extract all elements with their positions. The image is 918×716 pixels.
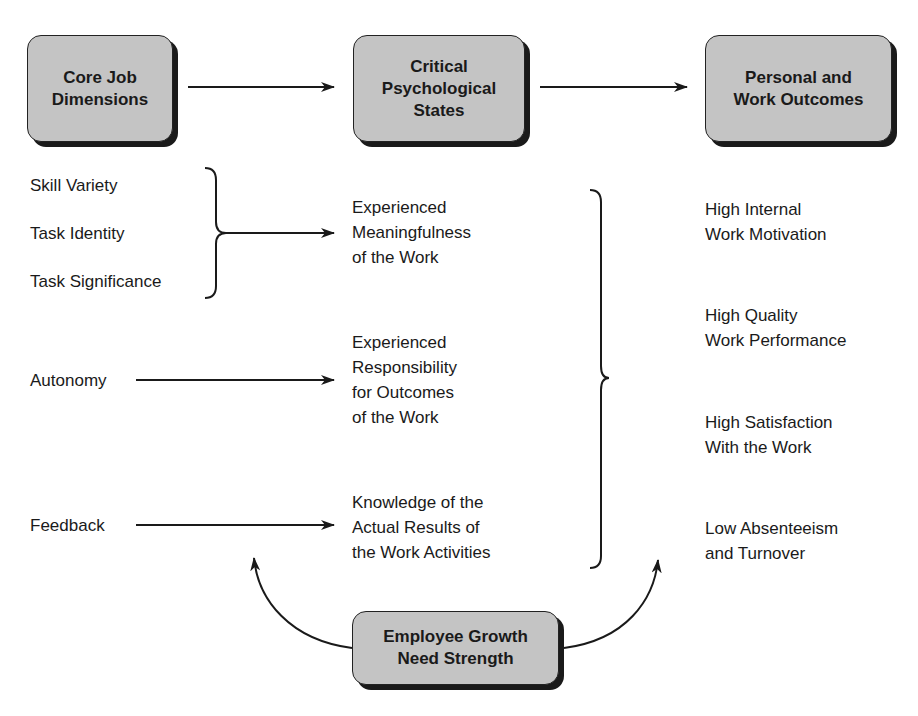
growth-need-strength-label: Employee Growth Need Strength [383, 626, 528, 670]
outcomes-box: Personal and Work Outcomes [705, 35, 892, 142]
outcome-motivation: High Internal Work Motivation [705, 197, 827, 247]
outcome-absenteeism: Low Absenteeism and Turnover [705, 516, 838, 566]
state-knowledge-of-results: Knowledge of the Actual Results of the W… [352, 490, 491, 565]
outcome-satisfaction: High Satisfaction With the Work [705, 410, 833, 460]
critical-states-label: Critical Psychological States [382, 56, 496, 122]
critical-states-box: Critical Psychological States [353, 35, 525, 142]
state-meaningfulness: Experienced Meaningfulness of the Work [352, 195, 471, 270]
moderator-arrow-left [254, 558, 352, 648]
outcome-performance: High Quality Work Performance [705, 303, 846, 353]
dimension-brace [205, 168, 226, 298]
moderator-arrow-right [564, 560, 658, 648]
dimension-task-identity: Task Identity [30, 221, 125, 246]
outcomes-label: Personal and Work Outcomes [733, 67, 863, 111]
dimension-feedback: Feedback [30, 513, 105, 538]
dimension-skill-variety: Skill Variety [30, 173, 118, 198]
state-responsibility: Experienced Responsibility for Outcomes … [352, 330, 457, 430]
growth-need-strength-box: Employee Growth Need Strength [352, 611, 559, 685]
dimension-autonomy: Autonomy [30, 368, 107, 393]
core-job-dimensions-label: Core Job Dimensions [52, 67, 148, 111]
states-brace [590, 190, 609, 568]
dimension-task-significance: Task Significance [30, 269, 161, 294]
core-job-dimensions-box: Core Job Dimensions [27, 35, 173, 142]
